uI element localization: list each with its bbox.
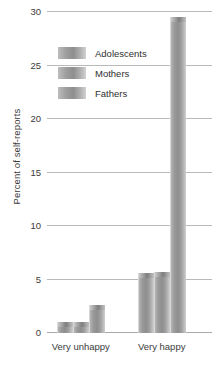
- y-tick-label-15: 15: [30, 166, 41, 177]
- legend-item-adolescents: Adolescents: [58, 44, 176, 62]
- bar-cap: [58, 322, 73, 327]
- bar-adolescents-very-happy: [138, 273, 154, 333]
- y-tick-label-0: 0: [36, 327, 41, 338]
- legend-swatch-icon: [58, 47, 86, 59]
- legend-label-fathers: Fathers: [95, 88, 127, 99]
- legend-label-mothers: Mothers: [95, 68, 129, 79]
- y-tick-label-20: 20: [30, 113, 41, 124]
- bar-mothers-very-unhappy: [73, 322, 89, 333]
- x-axis-label-very-unhappy: Very unhappy: [52, 341, 110, 352]
- bar-cap: [171, 17, 186, 22]
- legend-label-adolescents: Adolescents: [95, 48, 147, 59]
- y-tick-label-25: 25: [30, 59, 41, 70]
- bar-adolescents-very-unhappy: [57, 322, 73, 333]
- bar-cap: [90, 305, 105, 310]
- y-axis-title: Percent of self-reports: [11, 87, 22, 227]
- y-tick-label-5: 5: [36, 273, 41, 284]
- legend-item-fathers: Fathers: [58, 84, 176, 102]
- bar-cap: [155, 272, 170, 277]
- bar-fathers-very-unhappy: [89, 305, 105, 333]
- legend-swatch-icon: [58, 67, 86, 79]
- bar-mothers-very-happy: [154, 272, 170, 333]
- bar-cap: [139, 273, 154, 278]
- y-tick-label-30: 30: [30, 6, 41, 17]
- legend-swatch-icon: [58, 87, 86, 99]
- x-axis-label-very-happy: Very happy: [138, 341, 186, 352]
- legend-item-mothers: Mothers: [58, 64, 176, 82]
- bar-cap: [74, 322, 89, 327]
- y-tick-label-10: 10: [30, 220, 41, 231]
- bar-chart: Percent of self-reports 051015202530 Ver…: [0, 0, 219, 369]
- legend: Adolescents Mothers Fathers: [58, 44, 176, 104]
